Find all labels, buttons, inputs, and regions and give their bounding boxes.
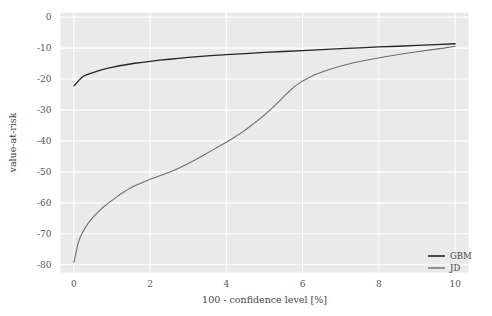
y-axis-label: value-at-risk <box>7 112 18 173</box>
x-tick-label: 10 <box>449 279 461 289</box>
x-tick-label: 4 <box>224 279 230 289</box>
chart-figure: 0246810 0-10-20-30-40-50-60-70-80 100 - … <box>0 0 492 316</box>
x-tick-label: 6 <box>300 279 306 289</box>
legend-label-gbm: GBM <box>450 251 472 261</box>
y-tick-label: -80 <box>37 260 52 270</box>
legend-label-jd: JD <box>449 263 460 273</box>
y-tick-label: -40 <box>37 136 52 146</box>
y-tick-label: -50 <box>37 167 52 177</box>
y-tick-label: -70 <box>37 229 52 239</box>
x-axis-label: 100 - confidence level [%] <box>202 294 327 305</box>
value-at-risk-line-chart: 0246810 0-10-20-30-40-50-60-70-80 100 - … <box>0 0 492 316</box>
y-tick-label: -10 <box>37 43 52 53</box>
y-tick-label: 0 <box>46 12 52 22</box>
y-axis-tick-labels: 0-10-20-30-40-50-60-70-80 <box>37 12 52 270</box>
x-tick-label: 8 <box>376 279 382 289</box>
y-tick-label: -30 <box>37 105 52 115</box>
y-tick-label: -20 <box>37 74 52 84</box>
x-tick-label: 2 <box>147 279 153 289</box>
y-tick-label: -60 <box>37 198 52 208</box>
x-tick-label: 0 <box>71 279 77 289</box>
